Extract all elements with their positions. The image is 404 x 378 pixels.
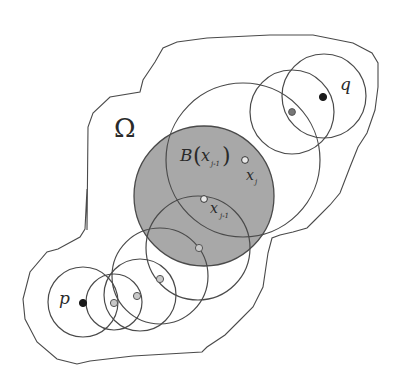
point-chain-2-dot [133, 292, 140, 299]
point-q-neighbor-dot [289, 109, 296, 116]
point-chain-1-dot [110, 299, 117, 306]
point-p-dot [79, 299, 86, 306]
diagram-canvas: Ω p q B ( x j-1 ) x j x j-1 [0, 0, 404, 378]
ball-label: B ( x j-1 ) [179, 143, 231, 168]
xj-label-x: x [246, 167, 254, 183]
q-label: q [340, 74, 351, 94]
point-x_j-dot [242, 157, 249, 164]
p-label: p [59, 288, 70, 308]
ball-label-x: x [201, 146, 210, 165]
point-chain-4-dot [195, 244, 202, 251]
ball-chain-diagram: Ω p q B ( x j-1 ) x j x j-1 [0, 0, 404, 378]
omega-label: Ω [114, 113, 136, 143]
point-q-dot [319, 93, 326, 100]
point-x_j-1-dot [201, 196, 208, 203]
point-chain-3-dot [156, 275, 163, 282]
xj1-label-x: x [210, 200, 218, 216]
ball-label-close-paren: ) [222, 143, 231, 168]
xj1-label-subscript: j-1 [218, 212, 229, 220]
ball-label-subscript: j-1 [209, 160, 220, 168]
ball-label-B: B [179, 145, 193, 165]
